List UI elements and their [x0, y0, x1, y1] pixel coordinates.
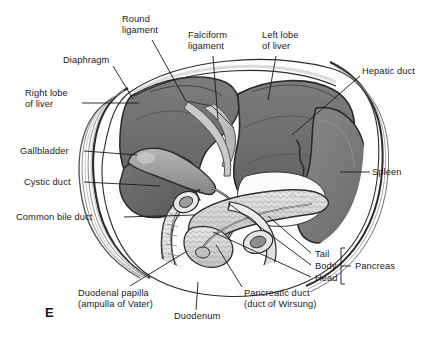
diaphragm-leader [113, 66, 133, 99]
label-common-bile-duct: Common bile duct [16, 212, 93, 223]
label-right-lobe-of-liver: Right lobe of liver [25, 88, 68, 109]
label-pancreas: Pancreas [355, 261, 395, 272]
label-left-lobe-of-liver: Left lobe of liver [262, 30, 299, 51]
label-gallbladder: Gallbladder [20, 146, 69, 157]
label-pancreatic-duct: Pancreatic duct (duct of Wirsung) [244, 288, 316, 309]
label-diaphragm: Diaphragm [63, 55, 109, 66]
label-hepatic-duct: Hepatic duct [362, 66, 415, 77]
panel-letter: E [45, 305, 54, 320]
label-duodenal-papilla: Duodenal papilla (ampulla of Vater) [78, 288, 153, 309]
duodenal-papilla [195, 247, 209, 258]
label-cystic-duct: Cystic duct [24, 177, 71, 188]
label-body: Body [315, 261, 337, 272]
label-spleen: Spleen [372, 167, 402, 178]
label-round-ligament: Round ligament [122, 14, 158, 35]
label-falciform-ligament: Falciform ligament [188, 30, 227, 51]
figure-canvas: Round ligament Falciform ligament Left l… [0, 0, 437, 339]
label-duodenum: Duodenum [174, 311, 220, 322]
label-head: Head [315, 273, 338, 284]
label-tail: Tail [315, 249, 329, 260]
